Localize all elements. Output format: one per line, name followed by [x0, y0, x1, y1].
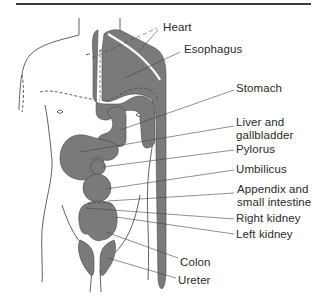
- anatomy-figure: Heart Esophagus Stomach Liver and gallbl…: [0, 0, 317, 307]
- colon-region: [78, 240, 94, 275]
- label-pylorus: Pylorus: [236, 143, 275, 156]
- label-heart: Heart: [163, 21, 192, 34]
- label-liver-line1: Liver and: [236, 116, 284, 129]
- label-colon: Colon: [180, 256, 211, 269]
- umbilicus-region: [83, 174, 111, 202]
- label-left-kidney: Left kidney: [236, 228, 293, 241]
- label-liver-line2: gallbladder: [236, 129, 293, 142]
- label-esophagus: Esophagus: [184, 43, 242, 56]
- ureter-region: [100, 240, 116, 275]
- kidney-region: [79, 201, 117, 241]
- label-ureter: Ureter: [178, 274, 211, 287]
- label-appendix-line2: small intestine: [237, 196, 311, 209]
- liver-region: [60, 135, 118, 180]
- label-stomach: Stomach: [236, 82, 282, 95]
- label-appendix-line1: Appendix and: [237, 183, 309, 196]
- label-right-kidney: Right kidney: [236, 212, 300, 225]
- label-umbilicus: Umbilicus: [236, 163, 287, 176]
